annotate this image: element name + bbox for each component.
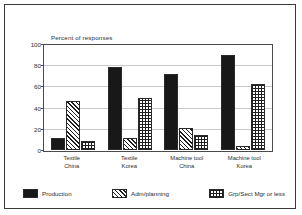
bar xyxy=(221,55,235,150)
chart-legend: ProductionAdm/planningGrp/Sect Mgr or le… xyxy=(23,189,285,198)
legend-swatch-icon xyxy=(112,189,127,198)
bar xyxy=(179,128,193,150)
chart-figure: Percent of responses 020406080100 Textil… xyxy=(4,4,296,209)
y-tick-label: 20 xyxy=(34,126,41,133)
legend-swatch-icon xyxy=(209,189,224,198)
x-axis-category-label: TextileKorea xyxy=(101,155,159,170)
bar xyxy=(123,138,137,150)
y-tick-mark xyxy=(41,150,44,151)
legend-label: Adm/planning xyxy=(131,190,169,197)
legend-item[interactable]: Adm/planning xyxy=(112,189,169,198)
y-tick-label: 60 xyxy=(34,83,41,90)
bar xyxy=(81,141,95,150)
legend-label: Production xyxy=(42,190,72,197)
category-label-line: China xyxy=(43,163,101,171)
category-label-line: Korea xyxy=(101,163,159,171)
bar xyxy=(164,74,178,150)
legend-label: Grp/Sect Mgr or less xyxy=(228,190,285,197)
y-tick-label: 40 xyxy=(34,105,41,112)
y-axis-title: Percent of responses xyxy=(51,34,112,41)
legend-swatch-icon xyxy=(23,189,38,198)
bar-group xyxy=(215,46,272,150)
y-tick-label: 100 xyxy=(31,41,41,48)
category-label-line: Machine tool xyxy=(216,155,274,163)
x-axis-category-label: Machine toolChina xyxy=(158,155,216,170)
legend-item[interactable]: Production xyxy=(23,189,72,198)
bar xyxy=(66,101,80,150)
x-axis-category-labels: TextileChinaTextileKoreaMachine toolChin… xyxy=(43,155,273,170)
y-tick-mark xyxy=(41,86,44,87)
y-tick-mark xyxy=(41,129,44,130)
category-label-line: Textile xyxy=(43,155,101,163)
bar xyxy=(138,98,152,150)
y-tick-mark xyxy=(41,44,44,45)
y-tick-mark xyxy=(41,108,44,109)
plot-area: 020406080100 xyxy=(43,44,273,152)
category-label-line: Textile xyxy=(101,155,159,163)
bar xyxy=(51,138,65,150)
legend-item[interactable]: Grp/Sect Mgr or less xyxy=(209,189,285,198)
bar-groups xyxy=(45,46,271,150)
bar-group xyxy=(158,46,215,150)
bar xyxy=(236,146,250,150)
category-label-line: China xyxy=(158,163,216,171)
plot-wrapper: 020406080100 xyxy=(43,44,273,152)
category-label-line: Korea xyxy=(216,163,274,171)
bar-group xyxy=(45,46,102,150)
x-axis-category-label: Machine toolKorea xyxy=(216,155,274,170)
bar xyxy=(194,135,208,150)
x-axis-category-label: TextileChina xyxy=(43,155,101,170)
y-tick-label: 80 xyxy=(34,62,41,69)
y-tick-mark xyxy=(41,65,44,66)
bar xyxy=(108,67,122,150)
bar-group xyxy=(102,46,159,150)
bar xyxy=(251,84,265,150)
category-label-line: Machine tool xyxy=(158,155,216,163)
